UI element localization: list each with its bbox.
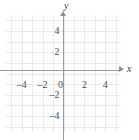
y-axis-arrow-icon (60, 11, 66, 16)
y-axis-tick-label: 4 (48, 26, 60, 36)
x-axis-tick-label: –4 (17, 80, 27, 90)
x-axis-tick-label: 2 (82, 80, 87, 90)
y-axis-tick-label: –2 (48, 90, 60, 100)
y-axis-tick-label: –4 (48, 111, 60, 121)
x-axis-arrow-icon (119, 66, 124, 72)
x-axis-label: x (127, 64, 131, 74)
y-axis-label: y (64, 1, 68, 11)
coordinate-grid-figure: –4–2024 42–2–4 x y (0, 0, 139, 140)
x-axis-line (0, 70, 122, 72)
x-axis-tick-label: –2 (38, 80, 48, 90)
y-axis-line (63, 14, 65, 140)
x-axis-tick-label: 4 (103, 80, 108, 90)
y-axis-tick-label: 2 (48, 47, 60, 57)
